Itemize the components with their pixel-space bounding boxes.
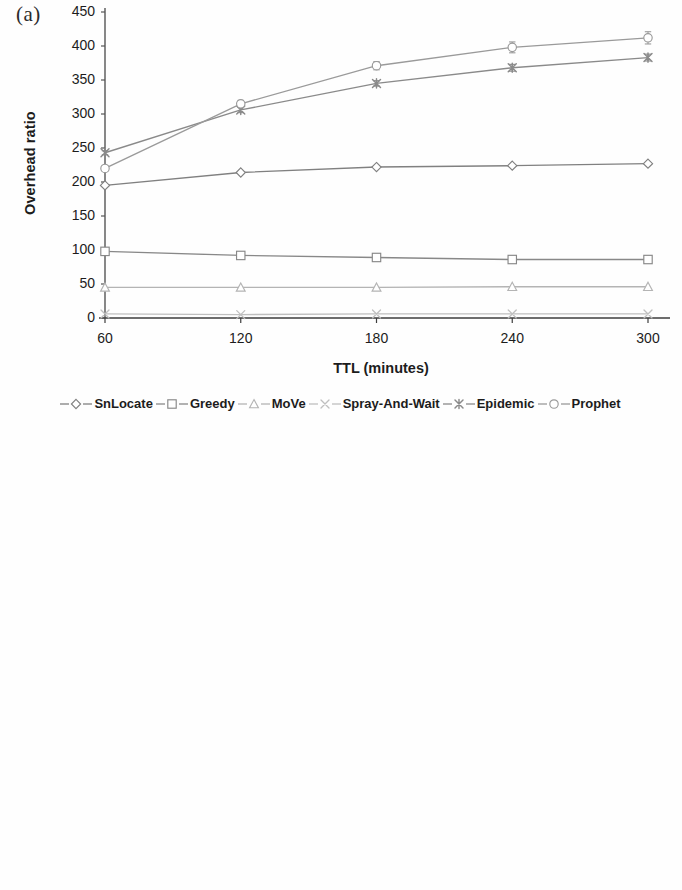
data-point (508, 255, 516, 263)
y-tick-label: 50 (57, 275, 95, 291)
legend-label: Epidemic (477, 396, 535, 411)
data-point (101, 247, 109, 255)
legend-item-spray-and-wait[interactable]: Spray-And-Wait (308, 396, 442, 411)
y-tick-label: 450 (57, 3, 95, 19)
x-tick-label: 180 (352, 330, 402, 346)
cross-icon (308, 397, 342, 411)
legend-item-move[interactable]: MoVe (237, 396, 308, 411)
y-tick-label: 0 (57, 309, 95, 325)
x-axis-label-a: TTL (minutes) (191, 360, 571, 376)
x-tick-label: 300 (623, 330, 673, 346)
legend-label: SnLocate (94, 396, 153, 411)
series-move (101, 282, 653, 291)
x-tick-label: 240 (487, 330, 537, 346)
y-tick-label: 350 (57, 71, 95, 87)
diamond-icon (59, 397, 93, 411)
data-point (508, 161, 517, 170)
legend-label: Spray-And-Wait (343, 396, 440, 411)
legend-item-epidemic[interactable]: Epidemic (442, 396, 537, 411)
chart-panel-a: (a) Overhead ratio TTL (minutes) SnLocat… (0, 0, 682, 445)
y-tick-label: 400 (57, 37, 95, 53)
data-point (372, 253, 380, 261)
x-tick-label: 60 (80, 330, 130, 346)
circle-icon (537, 397, 571, 411)
legend-a: SnLocateGreedyMoVeSpray-And-WaitEpidemic… (0, 396, 682, 411)
legend-label: Greedy (190, 396, 235, 411)
series-prophet (101, 32, 652, 173)
legend-label: MoVe (272, 396, 306, 411)
data-point (236, 168, 245, 177)
data-point (644, 255, 652, 263)
legend-item-greedy[interactable]: Greedy (155, 396, 237, 411)
data-point (508, 43, 516, 51)
y-tick-label: 100 (57, 241, 95, 257)
legend-item-prophet[interactable]: Prophet (537, 396, 623, 411)
data-point (101, 148, 109, 157)
legend-label: Prophet (572, 396, 621, 411)
triangle-icon (237, 397, 271, 411)
y-tick-label: 200 (57, 173, 95, 189)
data-point (372, 62, 380, 70)
asterisk-icon (442, 397, 476, 411)
data-point (101, 164, 109, 172)
data-point (237, 100, 245, 108)
data-point (237, 251, 245, 259)
data-point (372, 162, 381, 171)
series-snlocate (100, 159, 652, 190)
y-tick-label: 250 (57, 139, 95, 155)
square-icon (155, 397, 189, 411)
y-tick-label: 300 (57, 105, 95, 121)
y-tick-label: 150 (57, 207, 95, 223)
legend-item-snlocate[interactable]: SnLocate (59, 396, 155, 411)
series-greedy (101, 247, 652, 264)
data-point (643, 159, 652, 168)
data-point (644, 34, 652, 42)
x-tick-label: 120 (216, 330, 266, 346)
plot-area-a (0, 0, 682, 340)
